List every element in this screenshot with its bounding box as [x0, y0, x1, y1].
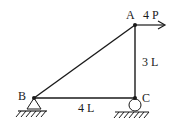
node-C-joint — [133, 96, 137, 100]
dimension-BC-label: 4 L — [78, 101, 94, 115]
node-A-label: A — [126, 8, 135, 22]
node-B-joint — [32, 96, 36, 100]
load-label: 4 P — [143, 8, 159, 22]
node-B-label: B — [18, 89, 26, 103]
truss-diagram: A 4 P 3 L B C 4 L — [0, 0, 178, 130]
node-C-label: C — [142, 91, 150, 105]
dimension-AC-label: 3 L — [142, 55, 158, 69]
load-arrow-icon — [135, 21, 165, 29]
member-BA — [34, 25, 135, 98]
node-A-joint — [133, 23, 137, 27]
